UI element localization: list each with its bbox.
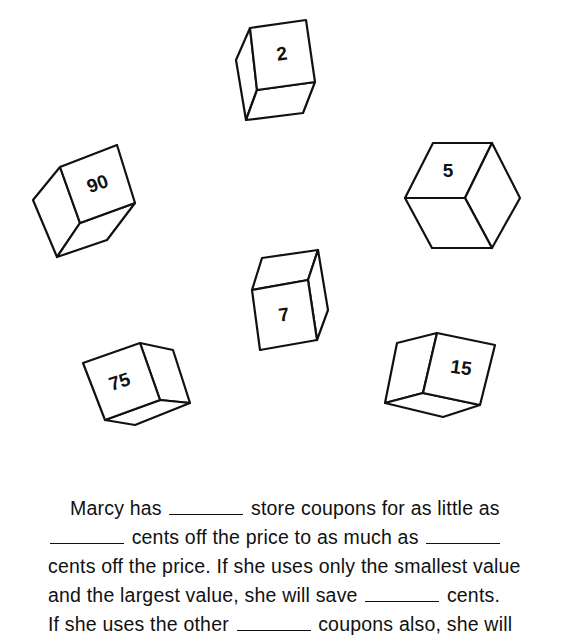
word-problem-passage: Marcy has store coupons for as little as… — [48, 494, 548, 637]
answer-blank-smallest-value[interactable] — [50, 527, 124, 544]
passage-text: Marcy has — [70, 497, 162, 519]
answer-blank-other-coupons[interactable] — [237, 614, 311, 631]
answer-blank-savings[interactable] — [365, 585, 439, 602]
coupon-cube-7: 7 — [252, 250, 328, 350]
passage-text: cents. — [447, 584, 500, 606]
passage-line-4: and the largest value, she will save cen… — [48, 581, 548, 610]
passage-text: cents off the price to as much as — [132, 526, 419, 548]
passage-text: If she uses the other — [48, 613, 229, 635]
cube-value: 5 — [443, 160, 454, 181]
passage-text: and the largest value, she will save — [48, 584, 358, 606]
coupon-cube-75: 75 — [83, 343, 190, 425]
answer-blank-largest-value[interactable] — [426, 527, 500, 544]
passage-line-5: If she uses the other coupons also, she … — [48, 610, 548, 637]
coupon-cubes-illustration: 2 90 5 7 75 15 — [0, 0, 574, 470]
answer-blank-coupon-count[interactable] — [169, 498, 243, 515]
passage-text: cents off the price. If she uses only th… — [48, 555, 521, 577]
coupon-cube-5: 5 — [405, 143, 520, 248]
cube-value: 15 — [449, 356, 473, 380]
passage-text: coupons also, she will — [318, 613, 512, 635]
coupon-cube-15: 15 — [385, 333, 495, 417]
passage-line-2: cents off the price to as much as — [48, 523, 548, 552]
passage-text: store coupons for as little as — [251, 497, 500, 519]
coupon-cube-90: 90 — [33, 145, 135, 257]
passage-line-1: Marcy has store coupons for as little as — [48, 494, 548, 523]
passage-line-3: cents off the price. If she uses only th… — [48, 552, 548, 581]
coupon-cube-2: 2 — [236, 20, 315, 120]
